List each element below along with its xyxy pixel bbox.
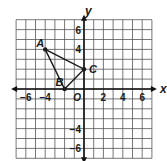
x-axis-label: x [159, 82, 167, 96]
coordinate-plane: xy−6−424664−4−6OABC [0, 0, 167, 161]
x-axis-arrow-left-icon [11, 86, 17, 92]
y-tick-label: −6 [70, 143, 82, 154]
origin-label: O [73, 92, 81, 103]
vertex-label-b: B [56, 76, 64, 88]
vertex-label-c: C [89, 63, 98, 75]
vertex-label-a: A [35, 37, 44, 49]
x-tick-label: −6 [20, 92, 32, 103]
y-axis-label: y [84, 4, 93, 18]
y-tick-label: 4 [75, 44, 81, 55]
vertex-point-c [82, 67, 86, 71]
x-tick-label: 2 [101, 92, 107, 103]
x-tick-label: −4 [39, 92, 51, 103]
y-axis-arrow-down-icon [81, 157, 87, 161]
y-tick-label: −4 [70, 124, 82, 135]
x-tick-label: 4 [120, 92, 126, 103]
x-tick-label: 6 [139, 92, 145, 103]
x-axis-arrow-right-icon [151, 86, 157, 92]
y-tick-label: 6 [75, 25, 81, 36]
